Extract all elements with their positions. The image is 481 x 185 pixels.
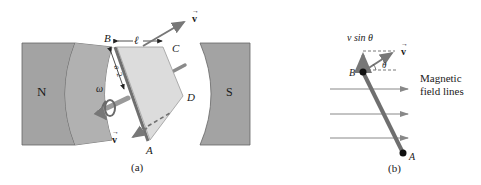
north-pole: N [22,43,112,145]
vector-arrow-bottom-icon: → [112,128,119,136]
length-label: ℓ [134,34,139,46]
vector-arrow-b-icon: → [401,40,408,48]
panel-a: N ω a 2 [22,7,250,174]
south-pole: S [200,43,250,145]
caption-b: (b) [388,162,401,175]
corner-label-D: D [186,91,195,103]
physics-figure: N ω a 2 [0,0,481,185]
south-pole-label: S [226,85,233,99]
panel-b: v sin θ v → θ B A Magnetic field lines (… [330,32,464,175]
point-A-dot [400,150,407,157]
current-loop [115,47,183,141]
angle-label: θ [382,60,387,70]
point-A-label: A [408,151,416,162]
field-label-line1: Magnetic [420,72,462,84]
vector-arrow-top-icon: → [192,7,199,15]
point-B-label: B [349,67,355,78]
rod-BA-side-view [363,72,403,153]
velocity-vector [364,53,392,71]
north-pole-label: N [37,84,47,99]
point-B-dot [360,69,367,76]
caption-a: (a) [131,161,144,174]
magnetic-field-lines [330,89,408,138]
field-label-line2: field lines [420,85,464,97]
corner-label-B: B [104,32,111,44]
corner-label-A: A [145,144,153,156]
omega-label: ω [96,83,103,94]
component-label: v sin θ [347,32,373,43]
length-dimension: ℓ [118,34,162,46]
corner-label-C: C [172,42,180,54]
